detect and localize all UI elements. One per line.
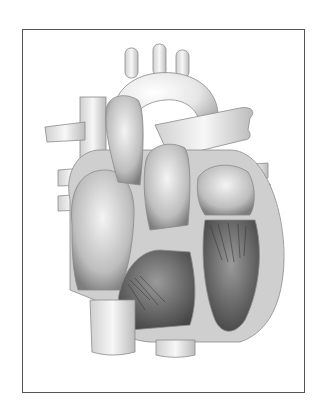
pulmonary-vein-left bbox=[45, 122, 85, 142]
heart-illustration bbox=[0, 0, 325, 415]
pulmonary-trunk-cavity bbox=[144, 144, 190, 230]
inferior-vena-cava bbox=[90, 300, 135, 355]
right-atrium bbox=[71, 170, 134, 290]
descending-vessel bbox=[156, 340, 195, 357]
left-atrium bbox=[197, 165, 254, 215]
aortic-branch-1 bbox=[125, 48, 138, 78]
aortic-branch-2 bbox=[153, 44, 166, 76]
